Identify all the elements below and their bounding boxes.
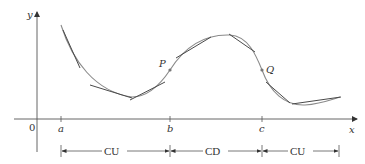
tangent-line bbox=[176, 37, 211, 58]
tangent-line bbox=[229, 34, 255, 52]
point-q-label: Q bbox=[266, 64, 274, 75]
origin-label: 0 bbox=[29, 122, 35, 133]
tangent-line bbox=[266, 82, 290, 103]
point-q-marker bbox=[260, 68, 263, 71]
y-axis-label: y bbox=[26, 9, 33, 20]
interval-label-cu-1: CU bbox=[104, 145, 119, 157]
x-axis-label: x bbox=[349, 124, 355, 135]
interval-label-cd: CD bbox=[205, 145, 220, 157]
point-p-marker bbox=[168, 68, 171, 71]
axes: y x 0 bbox=[14, 9, 357, 152]
tangent-line bbox=[63, 30, 80, 68]
inflection-points: P Q bbox=[158, 58, 274, 75]
tick-label-b: b bbox=[167, 123, 173, 134]
concavity-intervals: CU CD CU bbox=[61, 145, 339, 157]
function-curve bbox=[61, 25, 340, 105]
tangent-lines bbox=[63, 30, 341, 104]
interval-label-cu-2: CU bbox=[290, 145, 305, 157]
concavity-diagram: y x 0 a b c P Q CU bbox=[0, 0, 365, 164]
tick-label-a: a bbox=[58, 123, 64, 134]
tangent-line bbox=[90, 85, 132, 98]
tick-label-c: c bbox=[259, 123, 265, 134]
tangent-line bbox=[130, 82, 165, 100]
point-p-label: P bbox=[158, 58, 166, 69]
